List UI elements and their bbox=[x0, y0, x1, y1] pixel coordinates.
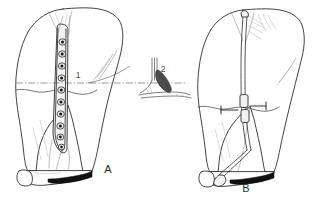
im-nail-head bbox=[241, 11, 248, 17]
plate-screw-9 bbox=[57, 134, 64, 140]
panel-b-caption: B bbox=[242, 182, 250, 194]
plate-screw-10 bbox=[58, 144, 64, 150]
callout-number-1: 1 bbox=[76, 70, 81, 80]
im-nail-segment-distal bbox=[241, 110, 249, 123]
figure-root: A 1 2 bbox=[0, 0, 319, 203]
im-nail-segment-proximal bbox=[240, 95, 248, 108]
plate-screw-7 bbox=[57, 111, 64, 117]
heel-block-a bbox=[17, 170, 32, 186]
plate-screw-8 bbox=[57, 123, 64, 129]
panel-a-caption: A bbox=[104, 163, 112, 175]
plate-screw-2 bbox=[59, 51, 66, 57]
plate-screw-3 bbox=[58, 63, 65, 69]
plate-screw-6 bbox=[57, 99, 64, 105]
plate-screw-5 bbox=[58, 87, 65, 93]
surgical-fixation-figure: A 1 2 bbox=[0, 0, 319, 203]
heel-block-b bbox=[199, 171, 214, 187]
plate-screw-1 bbox=[59, 39, 66, 45]
plate-screw-4 bbox=[58, 75, 65, 81]
